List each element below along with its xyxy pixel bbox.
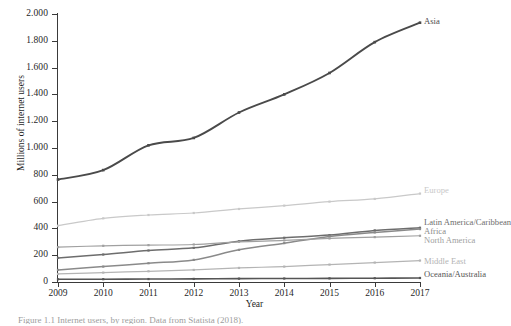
series-marker: [102, 253, 104, 255]
series-marker: [328, 237, 330, 239]
series-marker: [193, 269, 195, 271]
series-marker: [283, 237, 285, 239]
series-marker: [193, 243, 195, 245]
series-marker: [283, 239, 285, 241]
series-marker: [57, 273, 59, 275]
series-marker: [192, 137, 195, 140]
series-label-asia: Asia: [424, 17, 440, 26]
series-label-middle-east: Middle East: [424, 257, 466, 266]
series-marker: [419, 259, 421, 261]
series-marker: [374, 236, 376, 238]
series-marker: [57, 225, 59, 227]
series-marker: [328, 277, 330, 279]
series-marker: [419, 192, 421, 194]
series-marker: [238, 267, 240, 269]
series-marker: [328, 235, 330, 237]
series-marker: [102, 272, 104, 274]
series-marker: [283, 93, 286, 96]
series-marker: [193, 259, 195, 261]
series-line-asia: [58, 23, 420, 180]
series-marker: [238, 111, 241, 114]
series-marker: [419, 277, 421, 279]
series-marker: [57, 257, 59, 259]
series-label-europe: Europe: [424, 186, 449, 195]
series-marker: [193, 247, 195, 249]
series-marker: [328, 72, 331, 75]
figure-caption: Figure 1.1 Internet users, by region. Da…: [18, 315, 488, 324]
series-marker: [147, 262, 149, 264]
series-marker: [374, 277, 376, 279]
series-marker: [374, 198, 376, 200]
series-marker: [283, 265, 285, 267]
series-marker: [374, 229, 376, 231]
series-marker: [57, 246, 59, 248]
series-marker: [328, 201, 330, 203]
series-marker: [147, 278, 149, 280]
series-label-oceania-australia: Oceania/Australia: [424, 270, 486, 279]
series-marker: [419, 228, 421, 230]
series-marker: [57, 269, 59, 271]
series-marker: [57, 178, 60, 181]
series-marker: [193, 212, 195, 214]
series-marker: [374, 231, 376, 233]
series-marker: [373, 41, 376, 44]
series-marker: [238, 278, 240, 280]
series-marker: [238, 241, 240, 243]
series-marker: [147, 270, 149, 272]
series-marker: [283, 205, 285, 207]
series-marker: [102, 169, 105, 172]
series-marker: [328, 263, 330, 265]
series-marker: [238, 249, 240, 251]
series-marker: [102, 217, 104, 219]
series-marker: [283, 242, 285, 244]
series-marker: [57, 278, 59, 280]
series-marker: [102, 278, 104, 280]
series-marker: [238, 208, 240, 210]
series-marker: [419, 21, 422, 24]
series-marker: [283, 277, 285, 279]
series-marker: [147, 214, 149, 216]
series-marker: [419, 235, 421, 237]
series-marker: [374, 261, 376, 263]
series-marker: [102, 245, 104, 247]
series-label-north-america: North America: [424, 236, 475, 245]
series-marker: [147, 249, 149, 251]
series-marker: [147, 144, 150, 147]
series-marker: [147, 244, 149, 246]
series-marker: [102, 265, 104, 267]
series-marker: [193, 278, 195, 280]
